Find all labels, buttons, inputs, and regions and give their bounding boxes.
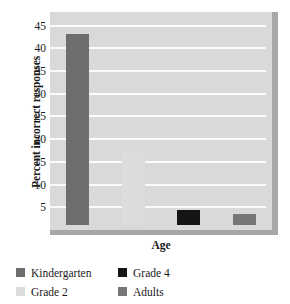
y-axis-tick-label: 30 [6, 88, 46, 100]
y-axis-tick-label: 40 [6, 42, 46, 54]
legend-swatch-icon [16, 268, 25, 277]
y-axis-tick-label: 10 [6, 179, 46, 191]
legend-item: Grade 4 [118, 263, 278, 282]
plot-inner [50, 12, 266, 225]
plot-area [50, 12, 278, 235]
legend-label: Grade 4 [133, 267, 170, 279]
bar-kindergarten [66, 34, 89, 225]
legend-item: Grade 2 [16, 282, 108, 301]
legend-item: Adults [118, 282, 278, 301]
y-axis-tick-label: 45 [6, 20, 46, 32]
y-axis-tick-label: 35 [6, 65, 46, 77]
bar-chart-figure: Percent incorrect responses 510152025303… [0, 0, 290, 304]
chart-legend: KindergartenGrade 4Grade 2Adults [16, 263, 278, 301]
legend-label: Grade 2 [31, 286, 68, 298]
legend-label: Kindergarten [31, 267, 91, 279]
legend-item: Kindergarten [16, 263, 108, 282]
y-axis-tick-label: 25 [6, 110, 46, 122]
bar-grade-2 [122, 152, 145, 225]
y-axis-tick-label: 5 [6, 201, 46, 213]
y-axis-tick-label: 20 [6, 133, 46, 145]
bar-grade-4 [177, 210, 200, 225]
legend-swatch-icon [118, 287, 127, 296]
gridline [50, 25, 266, 27]
legend-label: Adults [133, 286, 164, 298]
bar-adults [233, 214, 256, 225]
x-axis-title: Age [50, 239, 272, 251]
y-axis-tick-label: 15 [6, 156, 46, 168]
legend-swatch-icon [16, 287, 25, 296]
legend-swatch-icon [118, 268, 127, 277]
